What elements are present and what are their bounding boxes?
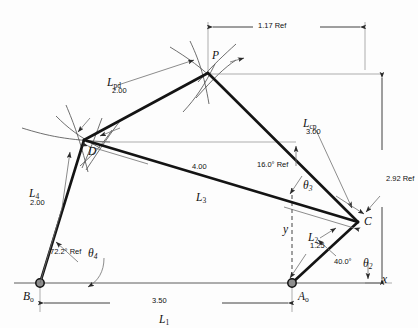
point-label-Bo: Bo [23, 287, 34, 304]
point-label-Ao-sub: o [305, 295, 309, 304]
point-label-P: P [212, 50, 219, 62]
angle-label-theta3: θ3 [303, 176, 312, 193]
point-label-Bo-sub: o [30, 295, 34, 304]
leader-Lpd [118, 60, 194, 85]
angle-label-72-2: 72.2° Ref [50, 248, 81, 256]
angle-label-40: 40.0° [334, 258, 352, 266]
link-L2 [292, 222, 358, 283]
angle-label-theta2: θ2 [363, 254, 372, 271]
linkage-diagram: P D C Bo Ao x y 1.17 Ref 2.92 Ref 3.50 4… [0, 0, 418, 328]
point-label-Ao: Ao [298, 287, 309, 304]
angle-label-theta4: θ4 [88, 244, 97, 261]
dimension-label-2-92: 2.92 Ref [386, 175, 414, 183]
axis-label-y: y [283, 224, 288, 236]
point-label-Bo-letter: B [23, 290, 30, 302]
dimension-label-3-50: 3.50 [152, 297, 167, 305]
dimension-4-00 [88, 146, 354, 228]
angle-label-theta4-sub: 4 [94, 252, 98, 261]
link-label-L1-sub: 1 [165, 318, 169, 327]
link-value-Lpd: 2.00 [112, 87, 127, 95]
link-label-L3-sub: 3 [202, 196, 206, 205]
extension-lines [40, 22, 392, 312]
dimension-label-4-00: 4.00 [192, 163, 207, 171]
point-label-C: C [364, 216, 372, 228]
diagram-canvas [0, 0, 418, 328]
angle-label-16: 16.0° Ref [257, 161, 288, 169]
point-label-Ao-letter: A [298, 290, 305, 302]
link-label-L1: L1 [159, 310, 169, 327]
axis-label-x: x [382, 274, 387, 286]
link-value-Lcp: 3.00 [306, 128, 321, 136]
link-Lpd [84, 73, 208, 140]
angle-label-theta2-sub: 2 [369, 262, 373, 271]
dimension-label-1-17: 1.17 Ref [258, 22, 286, 30]
link-value-L2: 1.25 [310, 242, 325, 250]
point-label-D: D [88, 146, 96, 158]
angle-label-theta3-sub: 3 [309, 184, 313, 193]
link-label-L3: L3 [196, 188, 206, 205]
pivot-Ao [288, 279, 296, 287]
link-value-L4: 2.00 [30, 199, 45, 207]
